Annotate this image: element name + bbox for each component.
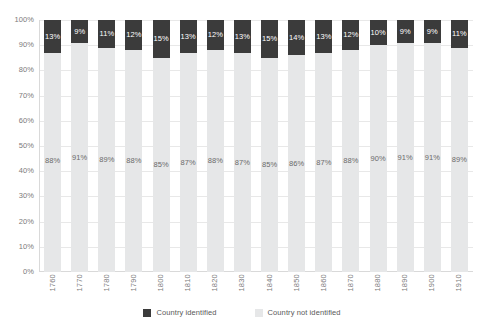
bar-segment-identified[interactable]: 12% — [342, 20, 359, 50]
bar-segment-not-identified[interactable]: 88% — [342, 50, 359, 272]
bar-value-label: 14% — [289, 34, 304, 42]
bar-value-label: 9% — [74, 28, 85, 36]
bar-segment-not-identified[interactable]: 87% — [180, 53, 197, 272]
bar-value-label: 91% — [72, 154, 87, 162]
x-axis-tick-label: 1820 — [211, 274, 219, 292]
y-axis-tick-label: 10% — [0, 243, 34, 251]
legend-swatch-icon — [143, 309, 151, 317]
bar-value-label: 85% — [262, 161, 277, 169]
bar-value-label: 91% — [398, 154, 413, 162]
y-axis-tick-label: 80% — [0, 67, 34, 75]
y-axis-tick-label: 100% — [0, 16, 34, 24]
bar-value-label: 91% — [425, 154, 440, 162]
y-axis: 0%10%20%30%40%50%60%70%80%90%100% — [0, 20, 34, 272]
x-axis-tick-label: 1840 — [266, 274, 274, 292]
bar-segment-identified[interactable]: 9% — [71, 20, 88, 43]
bar-group[interactable]: 91%9% — [71, 20, 88, 272]
x-axis-tick-label: 1830 — [238, 274, 246, 292]
bar-segment-not-identified[interactable]: 87% — [234, 53, 251, 272]
bar-segment-not-identified[interactable]: 88% — [125, 50, 142, 272]
bar-value-label: 89% — [452, 156, 467, 164]
bar-value-label: 9% — [427, 28, 438, 36]
chart-legend: Country identifiedCountry not identified — [0, 309, 484, 317]
x-axis-tick-label: 1880 — [374, 274, 382, 292]
bar-segment-identified[interactable]: 13% — [180, 20, 197, 53]
bar-group[interactable]: 89%11% — [451, 20, 468, 272]
bar-group[interactable]: 91%9% — [424, 20, 441, 272]
x-axis-tick-label: 1760 — [49, 274, 57, 292]
bar-segment-identified[interactable]: 11% — [98, 20, 115, 48]
bar-value-label: 13% — [316, 33, 331, 41]
bar-value-label: 87% — [181, 159, 196, 167]
bar-segment-identified[interactable]: 12% — [207, 20, 224, 50]
bar-group[interactable]: 89%11% — [98, 20, 115, 272]
x-axis-tick-label: 1910 — [455, 274, 463, 292]
bar-segment-identified[interactable]: 15% — [261, 20, 278, 58]
bar-segment-identified[interactable]: 13% — [315, 20, 332, 53]
x-axis: 1760177017801790180018101820183018401850… — [39, 274, 473, 304]
bar-group[interactable]: 87%13% — [180, 20, 197, 272]
x-axis-tick-label: 1900 — [428, 274, 436, 292]
bar-segment-not-identified[interactable]: 89% — [98, 48, 115, 272]
bar-group[interactable]: 85%15% — [261, 20, 278, 272]
bar-group[interactable]: 87%13% — [315, 20, 332, 272]
bar-segment-not-identified[interactable]: 85% — [261, 58, 278, 272]
stacked-bar-chart: 0%10%20%30%40%50%60%70%80%90%100% 88%13%… — [0, 0, 484, 330]
legend-label: Country not identified — [268, 309, 341, 317]
x-axis-tick-label: 1790 — [130, 274, 138, 292]
y-axis-tick-label: 90% — [0, 41, 34, 49]
bar-segment-not-identified[interactable]: 88% — [207, 50, 224, 272]
bar-segment-not-identified[interactable]: 87% — [315, 53, 332, 272]
bar-segment-identified[interactable]: 13% — [234, 20, 251, 53]
bar-group[interactable]: 86%14% — [288, 20, 305, 272]
x-axis-tick-label: 1770 — [76, 274, 84, 292]
bar-group[interactable]: 85%15% — [153, 20, 170, 272]
bar-value-label: 85% — [153, 161, 168, 169]
bar-group[interactable]: 88%12% — [342, 20, 359, 272]
legend-swatch-icon — [255, 309, 263, 317]
bars-layer: 88%13%91%9%89%11%88%12%85%15%87%13%88%12… — [39, 20, 473, 272]
bar-value-label: 90% — [370, 155, 385, 163]
bar-segment-identified[interactable]: 11% — [451, 20, 468, 48]
legend-item[interactable]: Country identified — [143, 309, 216, 317]
bar-value-label: 12% — [126, 31, 141, 39]
bar-value-label: 12% — [343, 31, 358, 39]
bar-segment-not-identified[interactable]: 89% — [451, 48, 468, 272]
bar-segment-identified[interactable]: 10% — [370, 20, 387, 45]
bar-segment-not-identified[interactable]: 86% — [288, 55, 305, 272]
bar-segment-not-identified[interactable]: 88% — [44, 50, 61, 272]
x-axis-tick-label: 1860 — [320, 274, 328, 292]
y-axis-tick-label: 60% — [0, 117, 34, 125]
bar-segment-identified[interactable]: 9% — [424, 20, 441, 43]
bar-segment-identified[interactable]: 14% — [288, 20, 305, 55]
y-axis-tick-label: 70% — [0, 92, 34, 100]
bar-value-label: 11% — [452, 30, 467, 38]
y-axis-tick-label: 30% — [0, 193, 34, 201]
bar-group[interactable]: 88%13% — [44, 20, 61, 272]
bar-segment-identified[interactable]: 12% — [125, 20, 142, 50]
bar-group[interactable]: 87%13% — [234, 20, 251, 272]
legend-label: Country identified — [156, 309, 216, 317]
bar-value-label: 88% — [126, 157, 141, 165]
bar-segment-not-identified[interactable]: 91% — [424, 43, 441, 272]
bar-value-label: 88% — [45, 157, 60, 165]
bar-segment-identified[interactable]: 9% — [397, 20, 414, 43]
bar-segment-not-identified[interactable]: 90% — [370, 45, 387, 272]
bar-value-label: 13% — [235, 33, 250, 41]
bar-value-label: 88% — [343, 157, 358, 165]
bar-segment-identified[interactable]: 15% — [153, 20, 170, 58]
bar-segment-not-identified[interactable]: 91% — [71, 43, 88, 272]
bar-value-label: 12% — [208, 31, 223, 39]
bar-group[interactable]: 88%12% — [207, 20, 224, 272]
bar-group[interactable]: 91%9% — [397, 20, 414, 272]
bar-value-label: 88% — [208, 157, 223, 165]
bar-segment-not-identified[interactable]: 85% — [153, 58, 170, 272]
bar-value-label: 89% — [99, 156, 114, 164]
bar-segment-identified[interactable]: 13% — [44, 20, 61, 53]
bar-value-label: 15% — [262, 35, 277, 43]
y-axis-tick-label: 20% — [0, 218, 34, 226]
bar-group[interactable]: 90%10% — [370, 20, 387, 272]
legend-item[interactable]: Country not identified — [255, 309, 341, 317]
bar-group[interactable]: 88%12% — [125, 20, 142, 272]
bar-segment-not-identified[interactable]: 91% — [397, 43, 414, 272]
